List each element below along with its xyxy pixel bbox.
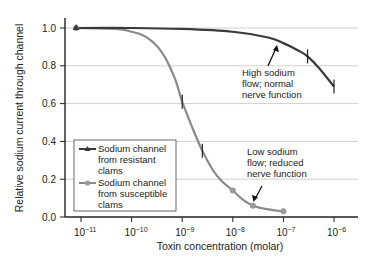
chart: 0.00.20.40.60.81.0 10−1110−1010−910−810−… [0, 0, 378, 266]
annotation-high-line1: High sodium [242, 67, 295, 78]
y-tick-label: 1.0 [42, 23, 56, 34]
x-tick-label: 10−11 [74, 226, 97, 238]
circle-marker-icon [85, 180, 90, 185]
legend-text-1: Sodium channel [98, 143, 166, 154]
annotation-low-line2: flow; reduced [247, 157, 304, 168]
y-axis-label: Relative sodium current through channel [13, 24, 25, 213]
annotation-arrow-high [268, 48, 276, 66]
legend-text-3: clams [98, 165, 123, 176]
legend-text-6: clams [98, 199, 123, 210]
y-tick-label: 0.0 [42, 212, 56, 223]
data-point-susceptible [250, 203, 256, 209]
legend-text-4: Sodium channel [98, 177, 166, 188]
data-point-susceptible [280, 208, 286, 214]
y-tick-label: 0.2 [42, 174, 56, 185]
x-tick-label: 10−8 [226, 226, 245, 238]
x-tick-label: 10−10 [125, 226, 148, 238]
y-tick-label: 0.4 [42, 136, 56, 147]
legend-text-5: from susceptible [98, 188, 167, 199]
legend: Sodium channel from resistant clams Sodi… [74, 140, 176, 211]
x-tick-label: 10−9 [175, 226, 194, 238]
x-tick-label: 10−6 [327, 226, 346, 238]
resistant-curve [76, 28, 334, 87]
y-tick-label: 0.8 [42, 60, 56, 71]
y-tick-label: 0.6 [42, 98, 56, 109]
annotation-low-sodium: Low sodium flow; reduced nerve function [247, 146, 307, 202]
legend-text-2: from resistant [98, 154, 156, 165]
x-tick-labels: 10−1110−1010−910−810−710−6 [74, 217, 346, 238]
annotation-high-line3: nerve function [242, 89, 302, 100]
annotation-high-sodium: High sodium flow; normal nerve function [242, 45, 302, 100]
annotation-low-line1: Low sodium [247, 146, 298, 157]
x-tick-label: 10−7 [276, 226, 295, 238]
annotation-high-line2: flow; normal [242, 78, 293, 89]
data-point-susceptible [230, 188, 236, 194]
annotation-low-line3: nerve function [247, 168, 307, 179]
y-tick-labels: 0.00.20.40.60.81.0 [42, 23, 65, 223]
arrow-head-icon [273, 45, 279, 52]
x-axis-label: Toxin concentration (molar) [157, 240, 284, 252]
